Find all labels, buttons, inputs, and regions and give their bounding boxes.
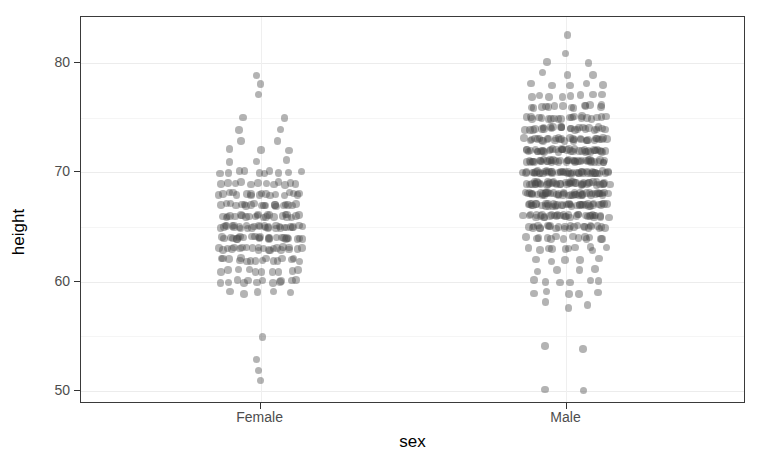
data-point xyxy=(235,126,243,134)
data-point xyxy=(277,126,285,134)
data-point xyxy=(605,214,613,222)
data-point xyxy=(560,235,568,243)
data-point xyxy=(233,191,241,199)
data-point xyxy=(538,125,546,133)
data-point xyxy=(226,145,234,153)
data-point xyxy=(541,342,549,350)
data-point xyxy=(299,223,307,231)
data-point xyxy=(606,181,614,189)
data-point xyxy=(285,169,293,177)
data-point xyxy=(584,301,592,309)
data-point xyxy=(225,279,233,287)
data-points-layer xyxy=(81,17,744,402)
data-point xyxy=(536,224,544,232)
data-point xyxy=(585,59,593,67)
data-point xyxy=(257,80,265,88)
data-point xyxy=(217,279,225,287)
data-point xyxy=(244,277,252,285)
y-axis-tick-labels: 80706050 xyxy=(36,0,70,464)
data-point xyxy=(595,277,603,285)
data-point xyxy=(559,93,567,101)
data-point xyxy=(285,147,293,155)
data-point xyxy=(240,290,248,298)
data-point xyxy=(254,179,262,187)
data-point xyxy=(570,104,578,112)
data-point xyxy=(237,137,245,145)
data-point xyxy=(577,91,585,99)
data-point xyxy=(539,69,547,77)
data-point xyxy=(225,169,233,177)
data-point xyxy=(557,115,565,123)
data-point xyxy=(285,235,293,243)
data-point xyxy=(255,91,263,99)
data-point xyxy=(580,387,588,395)
data-point xyxy=(595,255,603,263)
data-point xyxy=(262,255,270,263)
data-point xyxy=(253,158,261,166)
x-axis-tick-label: Male xyxy=(550,409,580,425)
data-point xyxy=(534,268,542,276)
data-point xyxy=(218,233,226,241)
data-point xyxy=(575,290,583,298)
data-point xyxy=(598,91,606,99)
data-point xyxy=(228,245,236,253)
data-point xyxy=(295,190,303,198)
data-point xyxy=(548,245,556,253)
y-axis-title: height xyxy=(0,0,38,464)
data-point xyxy=(576,256,584,264)
data-point xyxy=(564,71,572,79)
data-point xyxy=(292,276,300,284)
data-point xyxy=(296,258,304,266)
data-point xyxy=(604,190,612,198)
data-point xyxy=(281,114,289,122)
data-point xyxy=(553,266,561,274)
y-axis-tick-label: 50 xyxy=(36,383,70,397)
data-point xyxy=(247,190,255,198)
data-point xyxy=(255,367,263,375)
data-point xyxy=(603,244,611,252)
data-point xyxy=(275,169,283,177)
data-point xyxy=(587,277,595,285)
data-point xyxy=(541,386,549,394)
data-point xyxy=(295,211,303,219)
data-point xyxy=(586,234,594,242)
data-point xyxy=(571,244,579,252)
data-point xyxy=(569,135,577,143)
data-point xyxy=(542,278,550,286)
data-point xyxy=(266,167,274,175)
data-point xyxy=(275,268,283,276)
data-point xyxy=(239,114,247,122)
data-point xyxy=(570,113,578,121)
data-point xyxy=(574,211,582,219)
data-point xyxy=(298,168,306,176)
data-point xyxy=(567,92,575,100)
data-point xyxy=(225,255,233,263)
data-point xyxy=(566,279,574,287)
data-point xyxy=(543,288,551,296)
data-point xyxy=(586,101,594,109)
data-point xyxy=(226,288,234,296)
data-point xyxy=(536,246,544,254)
data-point xyxy=(298,244,306,252)
data-point xyxy=(528,93,536,101)
data-point xyxy=(257,146,265,154)
data-point xyxy=(278,255,286,263)
data-point xyxy=(601,126,609,134)
data-point xyxy=(576,266,584,274)
data-point xyxy=(270,288,278,296)
data-point xyxy=(264,224,272,232)
data-point xyxy=(532,256,540,264)
data-point xyxy=(272,191,280,199)
data-point xyxy=(601,224,609,232)
data-point xyxy=(589,247,597,255)
data-point xyxy=(259,277,267,285)
data-point xyxy=(589,91,597,99)
data-point xyxy=(604,169,612,177)
data-point xyxy=(525,244,533,252)
data-point xyxy=(523,180,531,188)
data-point xyxy=(287,289,295,297)
data-point xyxy=(565,304,573,312)
data-point xyxy=(235,266,243,274)
data-point xyxy=(253,356,261,364)
data-point xyxy=(583,80,591,88)
